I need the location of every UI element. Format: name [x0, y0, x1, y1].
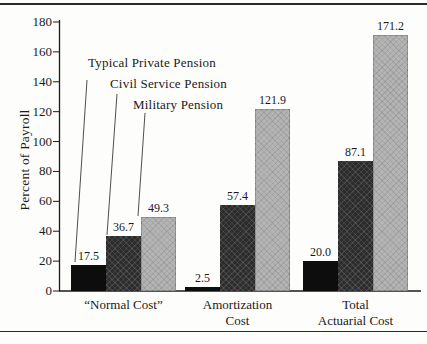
- bar-series1-group2: [338, 161, 373, 291]
- y-tick-label: 120: [12, 104, 52, 120]
- bar-series1-group0: [106, 236, 141, 291]
- bar-value-label: 20.0: [291, 246, 351, 259]
- y-tick-label: 60: [12, 193, 52, 209]
- y-tick-label: 160: [12, 44, 52, 60]
- y-tick-label: 20: [12, 253, 52, 269]
- legend-military-pension: Military Pension: [133, 97, 223, 113]
- x-category-label: “Normal Cost”: [59, 297, 189, 313]
- bar-value-label: 171.2: [361, 20, 421, 33]
- bar-series0-group0: [71, 265, 106, 291]
- y-tick-label: 180: [12, 14, 52, 30]
- leader-line-typical-private-pension: [75, 80, 87, 262]
- y-tick-label: 0: [12, 283, 52, 299]
- bottom-rule: [0, 331, 427, 332]
- bar-value-label: 87.1: [326, 146, 386, 159]
- leader-line-civil-service-pension: [107, 94, 117, 235]
- x-category-label: TotalActuarial Cost: [291, 297, 421, 328]
- leader-line-military-pension: [138, 113, 145, 216]
- bar-value-label: 17.5: [59, 250, 119, 263]
- y-tick-label: 80: [12, 163, 52, 179]
- y-tick-label: 40: [12, 223, 52, 239]
- bar-series0-group2: [303, 261, 338, 291]
- top-rule: [0, 3, 427, 5]
- bar-value-label: 57.4: [208, 190, 268, 203]
- legend-civil-service-pension: Civil Service Pension: [110, 76, 227, 92]
- bar-value-label: 2.5: [173, 272, 233, 285]
- legend-typical-private-pension: Typical Private Pension: [88, 55, 216, 71]
- y-tick-label: 100: [12, 134, 52, 150]
- bar-value-label: 49.3: [129, 202, 189, 215]
- y-tick-label: 140: [12, 74, 52, 90]
- bar-value-label: 121.9: [243, 94, 303, 107]
- bar-series0-group1: [185, 287, 220, 291]
- bar-value-label: 36.7: [94, 221, 154, 234]
- pension-cost-bar-chart: Percent of Payroll 020406080100120140160…: [0, 0, 427, 344]
- bar-series2-group2: [373, 35, 408, 291]
- x-category-label: AmortizationCost: [173, 297, 303, 328]
